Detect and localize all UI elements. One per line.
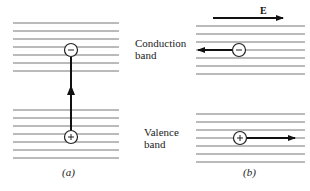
valence-band-label-line1: Valence bbox=[144, 127, 179, 138]
conduction-band-label-line2: band bbox=[135, 50, 156, 61]
field-label: E bbox=[260, 5, 267, 16]
valence-band-label-line2: band bbox=[144, 139, 165, 150]
panel-b-caption: (b) bbox=[243, 166, 256, 178]
band-diagram bbox=[0, 0, 310, 191]
panel-a-excitation-arrow bbox=[67, 57, 75, 131]
panel-a-caption: (a) bbox=[62, 166, 75, 178]
conduction-band-label-line1: Conduction bbox=[135, 38, 186, 49]
